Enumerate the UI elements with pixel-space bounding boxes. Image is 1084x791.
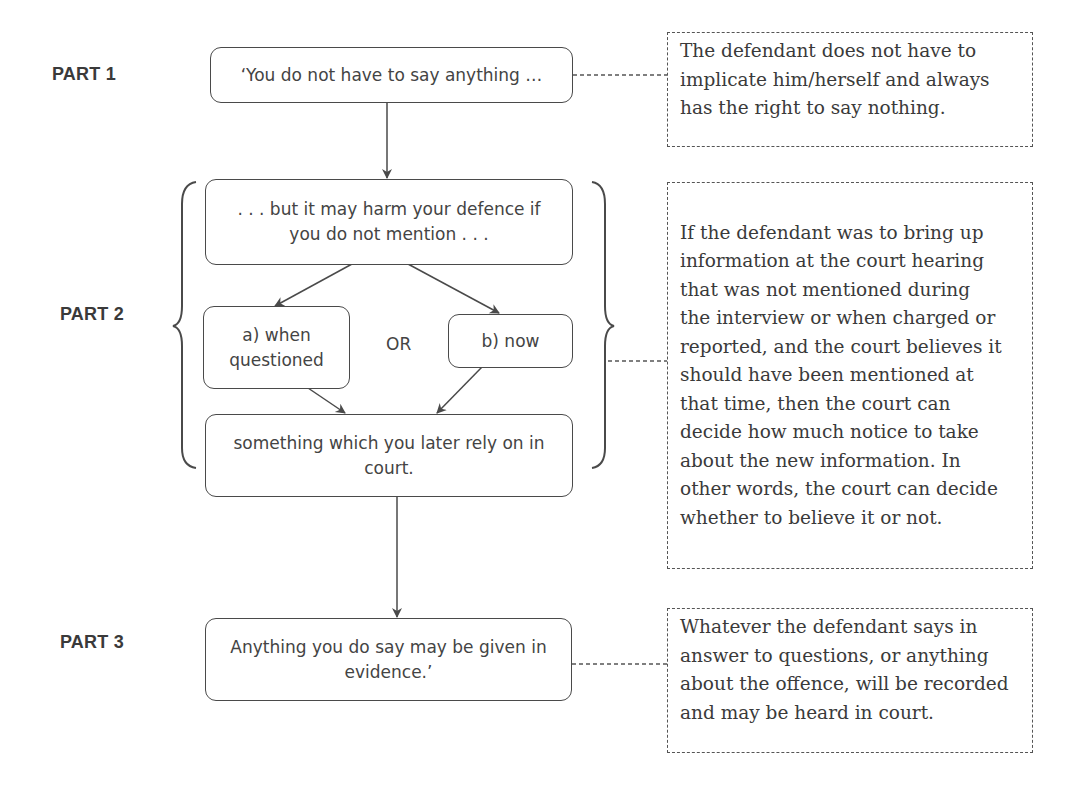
note-3-line: about the offence, will be recorded <box>680 670 1022 699</box>
arrow-top-to-option-a <box>275 264 352 306</box>
part-1-label: PART 1 <box>52 64 116 85</box>
part-2-label: PART 2 <box>60 304 124 325</box>
part-3-label: PART 3 <box>60 632 124 653</box>
part-3-evidence-text-line-2: evidence.’ <box>230 660 546 685</box>
note-2-line: If the defendant was to bring up <box>680 219 1022 248</box>
note-2-line: other words, the court can decide <box>680 475 1022 504</box>
part-2-harm-text-line-1: . . . but it may harm your defence if <box>237 197 540 222</box>
option-a-text-line-2: questioned <box>229 348 324 373</box>
note-3-line: answer to questions, or anything <box>680 642 1022 671</box>
note-2-line: reported, and the court believes it <box>680 333 1022 362</box>
part-2-harm-text-line-2: you do not mention . . . <box>237 222 540 247</box>
note-2-line: the interview or when charged or <box>680 304 1022 333</box>
note-2-line: should have been mentioned at <box>680 361 1022 390</box>
part-1-caution-box: ‘You do not have to say anything … <box>210 47 573 103</box>
right-brace <box>592 182 614 468</box>
part-2-explanation-note: If the defendant was to bring up informa… <box>667 182 1033 569</box>
or-label: OR <box>386 334 411 354</box>
option-a-text-line-1: a) when <box>229 323 324 348</box>
note-3-line: Whatever the defendant says in <box>680 613 1022 642</box>
part-3-explanation-note: Whatever the defendant says in answer to… <box>667 608 1033 753</box>
part-2-harm-defence-box: . . . but it may harm your defence if yo… <box>205 179 573 265</box>
part-3-evidence-box: Anything you do say may be given in evid… <box>205 618 572 701</box>
note-2-line: information at the court hearing <box>680 247 1022 276</box>
option-a-when-questioned-box: a) when questioned <box>203 306 350 389</box>
arrow-top-to-option-b <box>408 264 499 313</box>
part-1-caution-text: ‘You do not have to say anything … <box>241 63 543 88</box>
part-2-rely-text-line-2: court. <box>234 456 545 481</box>
caution-diagram: PART 1 PART 2 PART 3 ‘You do not have to… <box>0 0 1084 791</box>
note-2-line: about the new information. In <box>680 447 1022 476</box>
note-3-line: and may be heard in court. <box>680 699 1022 728</box>
option-b-text: b) now <box>482 329 540 354</box>
note-1-line: implicate him/herself and always <box>680 66 1022 95</box>
part-1-explanation-note: The defendant does not have to implicate… <box>667 32 1033 147</box>
option-b-now-box: b) now <box>448 314 573 368</box>
note-2-line: that was not mentioned during <box>680 276 1022 305</box>
note-2-line: that time, then the court can <box>680 390 1022 419</box>
left-brace <box>173 182 196 468</box>
note-2-line: decide how much notice to take <box>680 418 1022 447</box>
note-2-line: whether to believe it or not. <box>680 504 1022 533</box>
part-2-rely-on-in-court-box: something which you later rely on in cou… <box>205 414 573 497</box>
arrow-option-a-to-bottom <box>308 388 345 413</box>
arrow-option-b-to-bottom <box>437 367 482 413</box>
note-1-line: has the right to say nothing. <box>680 94 1022 123</box>
part-3-evidence-text-line-1: Anything you do say may be given in <box>230 635 546 660</box>
part-2-rely-text-line-1: something which you later rely on in <box>234 431 545 456</box>
note-1-line: The defendant does not have to <box>680 37 1022 66</box>
